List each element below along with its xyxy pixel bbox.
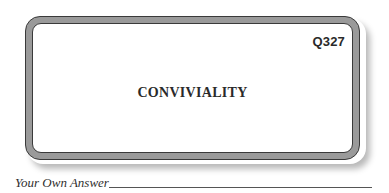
answer-input-line[interactable] — [109, 186, 372, 188]
answer-row: Your Own Answer — [15, 172, 372, 190]
card-face: Q327 CONVIVIALITY — [32, 23, 353, 153]
question-number: Q327 — [312, 34, 345, 49]
question-card: Q327 CONVIVIALITY — [25, 16, 360, 160]
question-word: CONVIVIALITY — [33, 85, 352, 101]
answer-label: Your Own Answer — [15, 176, 109, 190]
